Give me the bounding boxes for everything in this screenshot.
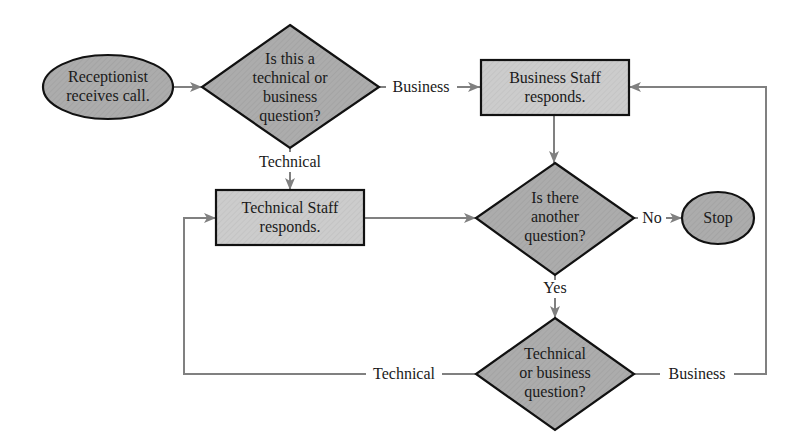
decision2-node: Is there another question? bbox=[476, 163, 634, 275]
business-staff-label-line1: Business Staff bbox=[509, 69, 601, 86]
decision1-node: Is this a technical or business question… bbox=[202, 25, 379, 148]
decision1-label-line2: technical or bbox=[252, 69, 328, 86]
technical-staff-label-line2: responds. bbox=[260, 218, 321, 236]
edge-label-d1-technical: Technical bbox=[259, 153, 322, 170]
start-label-line2: receives call. bbox=[66, 87, 150, 104]
edge-label-d1-business: Business bbox=[393, 78, 450, 95]
technical-staff-label-line1: Technical Staff bbox=[242, 199, 339, 216]
decision3-label-line3: question? bbox=[524, 383, 585, 401]
start-node: Receptionist receives call. bbox=[43, 55, 173, 119]
decision1-label-line4: question? bbox=[259, 107, 320, 125]
business-staff-node: Business Staff responds. bbox=[481, 60, 629, 115]
decision2-label-line1: Is there bbox=[531, 189, 579, 206]
edge-label-d3-technical: Technical bbox=[373, 365, 436, 382]
decision1-diamond bbox=[202, 25, 379, 148]
stop-node: Stop bbox=[682, 192, 754, 244]
decision2-label-line2: another bbox=[531, 208, 580, 225]
decision3-node: Technical or business question? bbox=[476, 318, 634, 430]
decision3-label-line1: Technical bbox=[524, 345, 587, 362]
decision1-label-line3: business bbox=[263, 88, 317, 105]
edge-label-d3-business: Business bbox=[669, 365, 726, 382]
decision2-label-line3: question? bbox=[524, 227, 585, 245]
flowchart-canvas: Receptionist receives call. Is this a te… bbox=[0, 0, 801, 445]
edge-label-d2-no: No bbox=[642, 209, 662, 226]
technical-staff-node: Technical Staff responds. bbox=[216, 190, 364, 245]
decision1-label-line1: Is this a bbox=[265, 50, 315, 67]
start-label-line1: Receptionist bbox=[68, 68, 149, 86]
edge-label-d2-yes: Yes bbox=[543, 279, 566, 296]
stop-label: Stop bbox=[703, 209, 732, 227]
business-staff-label-line2: responds. bbox=[525, 88, 586, 106]
decision3-label-line2: or business bbox=[519, 364, 591, 381]
